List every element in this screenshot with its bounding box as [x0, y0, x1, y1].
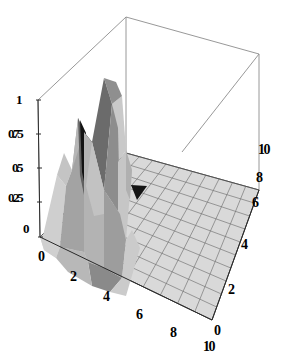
z-tick-label-05: 0.5	[12, 161, 21, 174]
x-tick-label-6: 6	[136, 308, 142, 322]
z-axis-line	[36, 100, 43, 237]
x-tick-label-4: 4	[103, 290, 109, 304]
z-tick-label-0: 0	[23, 222, 30, 235]
y-tick-label-4: 4	[241, 238, 247, 252]
x-tick-label-0: 0	[38, 250, 44, 264]
z-tick-label-025: 0.25	[8, 191, 21, 204]
y-tick-label-6: 6	[252, 196, 258, 210]
y-tick-label-2: 2	[228, 283, 234, 297]
z-tick-label-075: 0.75	[8, 127, 21, 140]
y-tick-label-0: 0	[214, 324, 220, 338]
z-tick-label-1: 1	[16, 93, 23, 106]
y-tick-label-10: 10	[258, 143, 269, 157]
x-tick-label-2: 2	[70, 270, 76, 284]
y-tick-label-8: 8	[256, 171, 262, 185]
surface-plot-figure: 1 0.75 0.5 0.25 0 0 2 4 6 8 10 0 2 4 6 8…	[0, 0, 282, 361]
x-tick-label-8: 8	[170, 326, 176, 340]
surface-spikes	[40, 78, 140, 296]
x-tick-label-10: 10	[203, 340, 214, 354]
